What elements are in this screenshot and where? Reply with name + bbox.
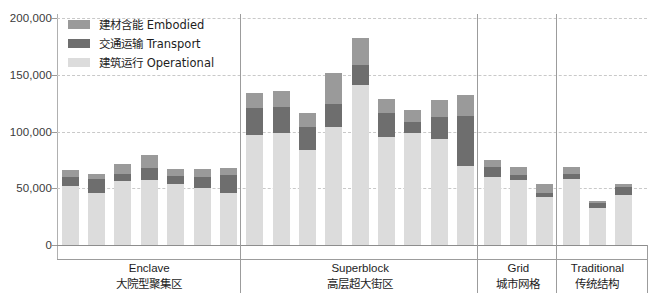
legend: 建材含能 Embodied交通运输 Transport建筑运行 Operatio…	[68, 15, 214, 72]
bar-segment-transport	[299, 127, 316, 150]
bar-segment-transport	[325, 104, 342, 127]
group-label-en: Traditional	[558, 260, 637, 276]
bar-segment-operational	[246, 135, 263, 245]
gridline-0	[57, 245, 647, 246]
bar-segment-embodied	[431, 100, 448, 117]
bar-segment-embodied	[325, 73, 342, 105]
bar-enclave-4	[141, 155, 158, 245]
bar-segment-transport	[114, 174, 131, 182]
bar-superblock-5	[352, 38, 369, 245]
legend-item-operational[interactable]: 建筑运行 Operational	[68, 53, 214, 71]
group-label-traditional: Traditional传统结构	[558, 260, 637, 292]
bar-segment-transport	[457, 116, 474, 166]
bar-segment-operational	[299, 150, 316, 245]
group-label-zh: 大院型聚集区	[57, 276, 242, 292]
bar-enclave-3	[114, 164, 131, 245]
bar-segment-operational	[536, 197, 553, 245]
group-separator	[556, 14, 557, 259]
bar-segment-operational	[484, 177, 501, 245]
bar-grid-3	[536, 184, 553, 245]
bar-segment-operational	[141, 180, 158, 245]
y-tick-100000	[51, 132, 57, 133]
bar-segment-operational	[431, 139, 448, 245]
bar-segment-operational	[563, 179, 580, 245]
bar-segment-embodied	[114, 164, 131, 173]
group-label-en: Enclave	[57, 260, 242, 276]
bar-traditional-1	[563, 167, 580, 245]
bar-segment-embodied	[378, 99, 395, 114]
y-tick-label: 150,000	[10, 69, 52, 81]
bar-segment-transport	[484, 167, 501, 177]
bar-segment-transport	[431, 117, 448, 140]
bar-enclave-5	[167, 169, 184, 245]
y-tick-0	[51, 245, 57, 246]
bar-traditional-2	[589, 201, 606, 245]
bar-segment-transport	[246, 108, 263, 135]
bar-segment-transport	[167, 176, 184, 184]
bar-superblock-2	[273, 91, 290, 245]
bar-traditional-3	[615, 184, 632, 245]
group-label-enclave: Enclave大院型聚集区	[57, 260, 242, 292]
bar-grid-1	[484, 160, 501, 245]
bar-segment-embodied	[194, 169, 211, 177]
bar-segment-transport	[352, 65, 369, 85]
bar-segment-embodied	[299, 113, 316, 127]
bar-segment-embodied	[404, 110, 421, 122]
chart-figure: 050,000100,000150,000200,000 Enclave大院型聚…	[0, 0, 660, 293]
bar-segment-operational	[589, 208, 606, 245]
y-tick-label: 200,000	[10, 12, 52, 24]
group-label-zh: 城市网格	[479, 276, 558, 292]
bar-segment-operational	[167, 184, 184, 245]
group-separator	[477, 14, 478, 259]
bar-segment-embodied	[536, 184, 553, 193]
legend-label-operational: 建筑运行 Operational	[99, 54, 214, 70]
bar-superblock-7	[404, 110, 421, 245]
bar-segment-transport	[615, 187, 632, 195]
bar-enclave-6	[194, 169, 211, 245]
bar-segment-embodied	[220, 168, 237, 175]
legend-item-embodied[interactable]: 建材含能 Embodied	[68, 15, 214, 33]
bar-segment-operational	[114, 181, 131, 245]
group-label-grid: Grid城市网格	[479, 260, 558, 292]
bar-segment-embodied	[246, 93, 263, 108]
bar-segment-embodied	[563, 167, 580, 174]
bar-enclave-1	[62, 170, 79, 245]
bar-segment-operational	[404, 133, 421, 245]
legend-item-transport[interactable]: 交通运输 Transport	[68, 34, 214, 52]
bar-segment-embodied	[273, 91, 290, 107]
group-label-en: Superblock	[242, 260, 479, 276]
bar-superblock-4	[325, 73, 342, 245]
bar-segment-embodied	[141, 155, 158, 167]
y-tick-label: 100,000	[10, 126, 52, 138]
bar-segment-embodied	[484, 160, 501, 167]
bar-segment-transport	[194, 177, 211, 188]
group-label-zh: 传统结构	[558, 276, 637, 292]
y-tick-50000	[51, 188, 57, 189]
bar-segment-operational	[457, 166, 474, 245]
legend-swatch-transport	[68, 39, 90, 48]
bar-segment-operational	[325, 127, 342, 245]
bar-segment-operational	[88, 193, 105, 245]
bar-segment-transport	[88, 179, 105, 193]
bar-superblock-6	[378, 99, 395, 245]
bar-segment-operational	[194, 188, 211, 245]
bar-segment-transport	[404, 122, 421, 132]
y-tick-label: 50,000	[16, 182, 52, 194]
bar-segment-transport	[141, 168, 158, 180]
bar-segment-transport	[273, 107, 290, 133]
bar-segment-embodied	[62, 170, 79, 177]
bar-superblock-9	[457, 95, 474, 245]
bar-segment-operational	[378, 137, 395, 245]
bar-segment-operational	[510, 180, 527, 245]
bar-segment-operational	[352, 85, 369, 245]
legend-swatch-operational	[68, 58, 90, 67]
bar-segment-operational	[220, 193, 237, 245]
bar-segment-transport	[378, 113, 395, 137]
group-separator-right	[647, 245, 648, 293]
bar-segment-embodied	[510, 167, 527, 175]
group-separator	[240, 14, 241, 259]
bar-segment-embodied	[457, 95, 474, 115]
bar-segment-embodied	[352, 38, 369, 64]
group-label-superblock: Superblock高层超大街区	[242, 260, 479, 292]
bar-superblock-8	[431, 100, 448, 245]
